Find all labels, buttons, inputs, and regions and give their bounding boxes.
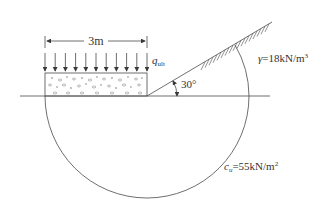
footing xyxy=(45,73,147,96)
bearing-capacity-diagram: 3m qult xyxy=(0,0,332,211)
unit-weight-label: γ=18kN/m3 xyxy=(258,52,309,64)
slope-angle-label: 30° xyxy=(181,78,196,90)
cohesion-label: cu=55kN/m2 xyxy=(224,160,279,174)
width-dimension: 3m xyxy=(45,34,147,48)
angle-arc xyxy=(173,81,177,96)
load-arrows xyxy=(45,53,147,71)
load-label: qult xyxy=(152,54,165,68)
width-label: 3m xyxy=(88,34,104,48)
slope-line xyxy=(147,22,272,96)
